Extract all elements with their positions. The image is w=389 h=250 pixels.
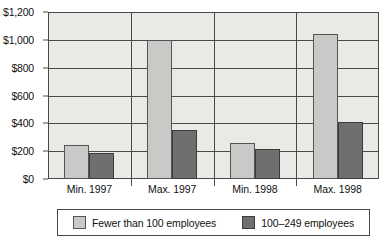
- y-tick-label: $1,200: [3, 6, 34, 18]
- y-tick-label: $0: [23, 173, 34, 185]
- plot-wrap: $0$200$400$600$800$1,000$1,200: [48, 12, 379, 179]
- x-axis-label: Min. 1998: [214, 183, 297, 195]
- bar-group: [48, 12, 131, 179]
- x-axis-label: Max. 1997: [131, 183, 214, 195]
- legend-label: Fewer than 100 employees: [92, 217, 216, 229]
- bar: [255, 149, 280, 179]
- legend-item: Fewer than 100 employees: [73, 216, 216, 229]
- bar-group: [214, 12, 297, 179]
- bar: [313, 34, 338, 179]
- y-tick-label: $200: [11, 145, 34, 157]
- bar-group: [296, 12, 379, 179]
- y-tick-label: $400: [11, 117, 34, 129]
- bar: [172, 130, 197, 179]
- legend-item: 100–249 employees: [242, 216, 354, 229]
- x-axis-labels: Min. 1997Max. 1997Min. 1998Max. 1998: [48, 183, 379, 195]
- legend-swatch: [242, 216, 255, 229]
- bar-group: [131, 12, 214, 179]
- bar: [64, 145, 89, 179]
- bar: [230, 143, 255, 179]
- chart-legend: Fewer than 100 employees100–249 employee…: [57, 209, 370, 236]
- bar: [147, 40, 172, 179]
- y-tick-label: $800: [11, 62, 34, 74]
- x-axis-label: Min. 1997: [48, 183, 131, 195]
- x-axis-label: Max. 1998: [296, 183, 379, 195]
- y-tick-label: $1,000: [3, 34, 34, 46]
- bar: [338, 122, 363, 179]
- y-tick-label: $600: [11, 90, 34, 102]
- bar-groups: [48, 12, 379, 179]
- bar-chart: $0$200$400$600$800$1,000$1,200 Min. 1997…: [0, 0, 389, 250]
- bar: [89, 153, 114, 179]
- legend-label: 100–249 employees: [261, 217, 354, 229]
- legend-swatch: [73, 216, 86, 229]
